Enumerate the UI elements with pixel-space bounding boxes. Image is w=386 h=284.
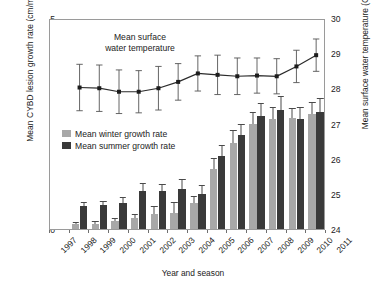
temperature-marker bbox=[137, 90, 141, 94]
y-tick-label-right: 25 bbox=[331, 190, 355, 200]
x-tick-label: 2001 bbox=[137, 235, 157, 255]
x-tick-label: 2007 bbox=[256, 235, 276, 255]
chart-legend: Mean winter growth rateMean summer growt… bbox=[62, 128, 175, 152]
y-tick-label-right: 27 bbox=[331, 120, 355, 130]
x-tick-mark bbox=[108, 230, 109, 233]
legend-label: Mean summer growth rate bbox=[75, 141, 175, 151]
x-tick-label: 2003 bbox=[177, 235, 197, 255]
temperature-marker bbox=[275, 74, 279, 78]
x-tick-mark bbox=[187, 230, 188, 233]
legend-item: Mean winter growth rate bbox=[62, 128, 175, 139]
temperature-marker bbox=[294, 64, 298, 68]
x-tick-mark bbox=[128, 230, 129, 233]
x-tick-mark bbox=[226, 230, 227, 233]
x-tick-label: 2004 bbox=[196, 235, 216, 255]
legend-label: Mean winter growth rate bbox=[75, 129, 167, 139]
temperature-annotation: Mean surface water temperature bbox=[85, 32, 195, 54]
x-tick-label: 2000 bbox=[118, 235, 138, 255]
annotation-line-1: Mean surface bbox=[85, 32, 195, 43]
temperature-marker bbox=[216, 73, 220, 77]
x-tick-mark bbox=[167, 230, 168, 233]
temperature-marker bbox=[235, 74, 239, 78]
temperature-marker bbox=[314, 53, 318, 57]
temperature-marker bbox=[97, 86, 101, 90]
x-tick-label: 2006 bbox=[236, 235, 256, 255]
x-tick-mark bbox=[266, 230, 267, 233]
temperature-marker bbox=[156, 86, 160, 90]
x-tick-mark bbox=[148, 230, 149, 233]
temperature-marker bbox=[196, 71, 200, 75]
x-tick-label: 2008 bbox=[275, 235, 295, 255]
x-tick-label: 2009 bbox=[295, 235, 315, 255]
y-tick-label-right: 30 bbox=[331, 14, 355, 24]
x-tick-label: 2011 bbox=[334, 235, 354, 255]
x-tick-label: 2010 bbox=[315, 235, 335, 255]
y-tick-label-right: 24 bbox=[331, 225, 355, 235]
legend-item: Mean summer growth rate bbox=[62, 140, 175, 151]
y-tick-label-right: 26 bbox=[331, 155, 355, 165]
x-tick-mark bbox=[246, 230, 247, 233]
legend-swatch-winter bbox=[62, 130, 71, 137]
legend-swatch-summer bbox=[62, 142, 71, 149]
temperature-marker bbox=[255, 74, 259, 78]
x-tick-mark bbox=[305, 230, 306, 233]
y-tick-label-right: 28 bbox=[331, 84, 355, 94]
x-tick-mark bbox=[325, 230, 326, 233]
x-tick-mark bbox=[88, 230, 89, 233]
temperature-marker bbox=[78, 86, 82, 90]
y-tick-label-right: 29 bbox=[331, 49, 355, 59]
x-tick-mark bbox=[49, 230, 50, 233]
x-axis-label: Year and season bbox=[0, 268, 386, 278]
x-tick-mark bbox=[69, 230, 70, 233]
x-tick-label: 2005 bbox=[216, 235, 236, 255]
chart-figure: Mean CYBD lesion growth rate (cm/month) … bbox=[0, 0, 386, 284]
x-tick-mark bbox=[286, 230, 287, 233]
temperature-marker bbox=[117, 90, 121, 94]
y-axis-label-right: Mean surface water temperature (C°) bbox=[360, 0, 370, 150]
x-tick-label: 2002 bbox=[157, 235, 177, 255]
x-tick-label: 1998 bbox=[78, 235, 98, 255]
x-tick-mark bbox=[207, 230, 208, 233]
x-tick-label: 1999 bbox=[98, 235, 118, 255]
x-tick-label: 1997 bbox=[58, 235, 78, 255]
temperature-marker bbox=[176, 80, 180, 84]
annotation-line-2: water temperature bbox=[85, 43, 195, 54]
